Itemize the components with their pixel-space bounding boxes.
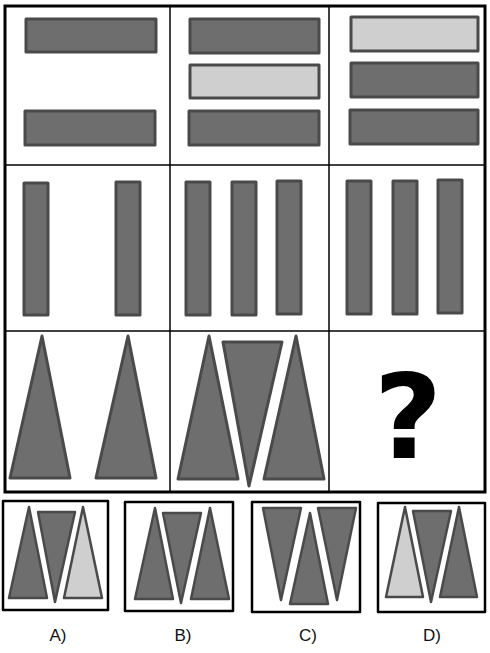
horizontal-bar-light [351, 17, 478, 51]
question-mark: ? [374, 348, 442, 486]
horizontal-bar-dark [351, 63, 478, 97]
puzzle-canvas: ? [0, 0, 490, 653]
vertical-bar-dark [393, 181, 417, 314]
horizontal-bar-dark [26, 19, 156, 52]
option-b[interactable] [125, 502, 233, 611]
vertical-bar-dark [438, 180, 462, 313]
option-d[interactable] [378, 503, 485, 612]
horizontal-bar-dark [350, 110, 478, 144]
vertical-bar-dark [116, 182, 140, 315]
vertical-bar-dark [24, 183, 48, 315]
horizontal-bar-dark [190, 19, 319, 53]
vertical-bar-dark [186, 182, 210, 315]
horizontal-bar-dark [25, 111, 155, 145]
option-a-label: A) [38, 626, 78, 646]
cell-r1-c3 [350, 17, 478, 144]
vertical-bar-dark [232, 182, 256, 315]
vertical-bar-dark [347, 181, 371, 314]
option-c-label: C) [288, 626, 328, 646]
cell-r3-c3: ? [374, 348, 442, 486]
option-b-label: B) [163, 626, 203, 646]
horizontal-bar-dark [189, 111, 319, 145]
cell-r1-c2 [189, 19, 319, 145]
option-c[interactable] [252, 502, 360, 612]
cell-r2-c3 [347, 180, 462, 314]
horizontal-bar-light [190, 65, 319, 98]
vertical-bar-dark [277, 181, 301, 314]
cell-r2-c2 [186, 181, 301, 315]
option-d-label: D) [412, 626, 452, 646]
option-a[interactable] [3, 501, 108, 610]
